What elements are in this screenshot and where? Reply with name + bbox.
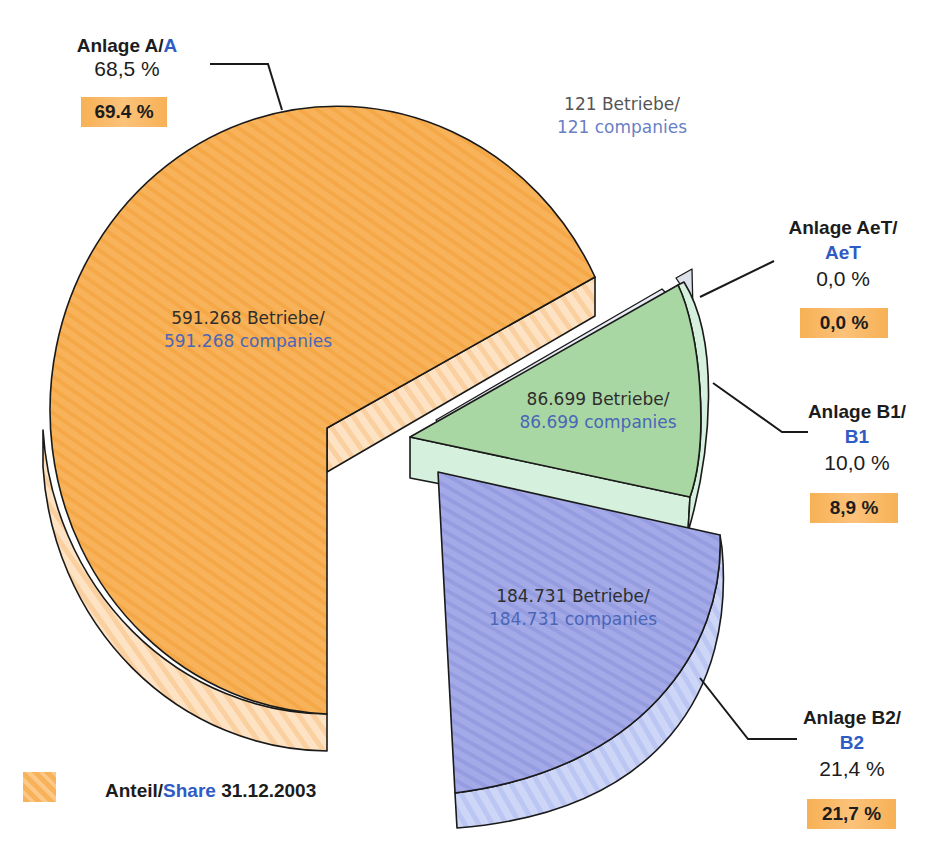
label-b1: Anlage B1/ B1 10,0 % (787, 402, 927, 473)
label-b2: Anlage B2/ B2 21,4 % (782, 708, 922, 779)
share-box-b2: 21,7 % (807, 799, 896, 829)
slice-b2 (438, 472, 723, 828)
share-box-b1: 8,9 % (810, 493, 898, 523)
label-a-percent: 68,5 % (57, 59, 197, 79)
count-label-a: 591.268 Betriebe/ 591.268 companies (133, 307, 363, 353)
label-a: Anlage A/A 68,5 % (57, 36, 197, 79)
legend-swatch-share (23, 772, 56, 802)
count-label-b1: 86.699 Betriebe/ 86.699 companies (488, 388, 708, 434)
count-label-b2: 184.731 Betriebe/ 184.731 companies (462, 585, 684, 631)
count-label-aet: 121 Betriebe/ 121 companies (532, 93, 712, 139)
label-aet: Anlage AeT/ AeT 0,0 % (773, 218, 913, 289)
share-box-aet: 0,0 % (800, 308, 888, 338)
legend-label: Anteil/Share 31.12.2003 (105, 780, 316, 802)
label-a-title: Anlage A/A (57, 36, 197, 56)
leader-line-a (210, 64, 282, 110)
share-box-a: 69.4 % (81, 97, 167, 127)
leader-line-aet (700, 261, 774, 297)
